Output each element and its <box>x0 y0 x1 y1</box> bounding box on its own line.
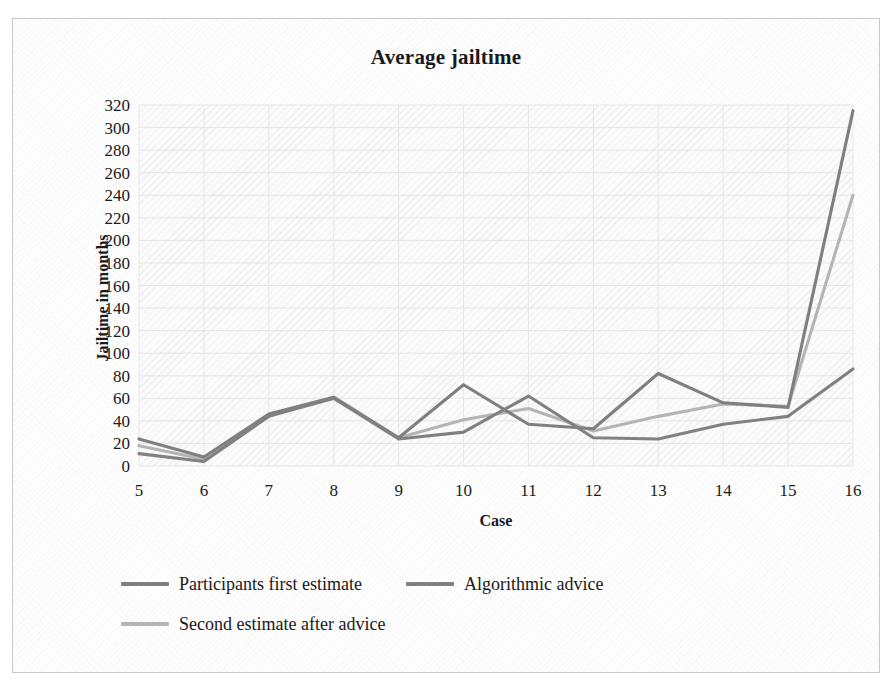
legend-line-swatch <box>406 582 454 586</box>
series-line <box>139 111 853 457</box>
x-axis-tick-label: 8 <box>329 482 338 499</box>
series-line <box>139 369 853 462</box>
figure-frame: Average jailtime Jailtime in months 3203… <box>12 18 880 673</box>
x-axis-tick-label: 10 <box>455 482 472 499</box>
y-axis-tick-label: 280 <box>105 142 131 159</box>
x-axis-tick-label: 14 <box>715 482 732 499</box>
legend-item-second-estimate-after-advice: Second estimate after advice <box>121 614 385 635</box>
chart-title: Average jailtime <box>13 45 879 70</box>
legend-item-participants-first-estimate: Participants first estimate <box>121 574 362 595</box>
y-axis-tick-label: 200 <box>105 232 131 249</box>
legend-line-swatch <box>121 622 169 626</box>
x-axis-tick-label: 9 <box>394 482 403 499</box>
series-lines <box>139 105 853 466</box>
legend-item-algorithmic-advice: Algorithmic advice <box>406 574 603 595</box>
y-axis-tick-label: 260 <box>105 164 131 181</box>
legend-row-1: Participants first estimate Algorithmic … <box>121 564 821 604</box>
y-axis-tick-label: 140 <box>105 300 131 317</box>
x-axis-tick-label: 7 <box>265 482 274 499</box>
x-axis-tick-label: 16 <box>845 482 862 499</box>
y-axis-tick-label: 120 <box>105 322 131 339</box>
x-axis-title: Case <box>139 512 853 530</box>
plot-area: 3203002802602402202001801601401201008060… <box>139 105 853 466</box>
legend-row-2: Second estimate after advice <box>121 604 821 644</box>
y-axis-tick-label: 180 <box>105 254 131 271</box>
x-axis-tick-label: 12 <box>585 482 602 499</box>
x-axis-tick-label: 13 <box>650 482 667 499</box>
y-axis-tick-label: 300 <box>105 119 131 136</box>
y-axis-tick-label: 100 <box>105 345 131 362</box>
legend-label: Participants first estimate <box>179 574 362 595</box>
y-axis-tick-label: 0 <box>122 458 131 475</box>
y-axis-tick-label: 320 <box>105 97 131 114</box>
legend-label: Second estimate after advice <box>179 614 385 635</box>
y-axis-tick-label: 80 <box>113 367 130 384</box>
y-axis-tick-label: 60 <box>113 390 130 407</box>
y-axis-tick-label: 240 <box>105 187 131 204</box>
y-axis-tick-label: 220 <box>105 209 131 226</box>
x-axis-tick-label: 11 <box>520 482 536 499</box>
x-axis-tick-label: 5 <box>135 482 144 499</box>
y-axis-tick-label: 20 <box>113 435 130 452</box>
legend-label: Algorithmic advice <box>464 574 603 595</box>
legend-line-swatch <box>121 582 169 586</box>
y-axis-tick-label: 40 <box>113 412 130 429</box>
series-line <box>139 195 853 459</box>
x-axis-tick-label: 15 <box>780 482 797 499</box>
x-axis-tick-label: 6 <box>200 482 209 499</box>
y-axis-tick-label: 160 <box>105 277 131 294</box>
legend: Participants first estimate Algorithmic … <box>121 564 821 644</box>
